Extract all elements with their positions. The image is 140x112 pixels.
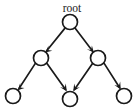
edge-line [75, 64, 93, 90]
label-layer: root [63, 2, 82, 14]
edge-root-to-left-middle [45, 28, 65, 52]
graph-diagram: root [0, 0, 140, 112]
node-bottom-right[interactable] [117, 89, 132, 104]
graph-canvas: root [0, 0, 140, 112]
edge-line [47, 28, 66, 51]
edge-root-to-right-middle [75, 28, 94, 52]
node-bottom-left[interactable] [6, 89, 21, 104]
edge-line [75, 28, 93, 51]
edge-line [47, 64, 66, 90]
edge-left-middle-to-bottom-middle [47, 64, 67, 92]
node-right-middle[interactable] [91, 51, 106, 66]
edge-right-middle-to-bottom-right [104, 63, 121, 89]
node-layer [6, 15, 132, 107]
edge-left-middle-to-bottom-left [18, 63, 36, 90]
edge-line [104, 63, 120, 87]
node-left-middle[interactable] [34, 51, 49, 66]
node-bottom-middle[interactable] [63, 92, 78, 107]
edge-line [19, 63, 36, 88]
root-label: root [63, 2, 82, 14]
edge-right-middle-to-bottom-middle [73, 64, 92, 92]
node-root[interactable] [63, 15, 78, 30]
